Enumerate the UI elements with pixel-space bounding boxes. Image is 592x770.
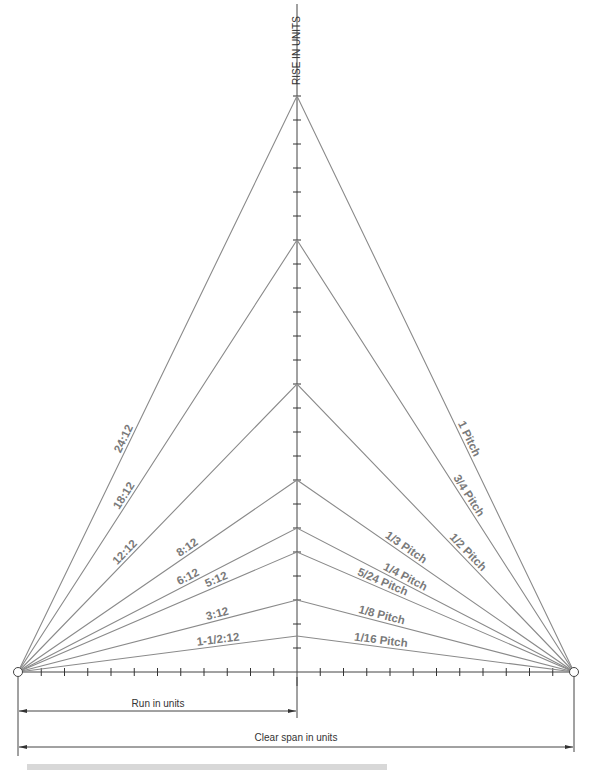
span-label: Clear span in units [255,732,338,743]
span-arrow-right-icon [565,745,573,749]
run-arrow-left-icon [19,709,27,713]
roof-pitch-diagram: RISE IN UNITS 24:1218:1212:128:126:125:1… [0,0,592,770]
roof-pitch-line [18,552,574,672]
slope-ratio-label: 3:12 [204,605,229,622]
pitch-fraction-label: 1 Pitch [456,419,483,458]
run-label: Run in units [132,698,185,709]
pitch-fraction-label: 1/8 Pitch [357,603,406,626]
span-arrow-left-icon [19,745,27,749]
left-pivot-circle [14,668,23,677]
pitch-fraction-label: 1/3 Pitch [383,529,429,566]
slope-ratio-label: 1-1/2:12 [196,630,240,647]
figure-caption-clipped [27,764,387,770]
right-pivot-circle [570,668,579,677]
rise-axis-label: RISE IN UNITS [291,16,302,85]
pitch-fraction-label: 1/2 Pitch [447,531,489,573]
roof-pitch-line [18,636,574,672]
run-arrow-right-icon [288,709,296,713]
slope-ratio-label: 18:12 [111,480,137,511]
